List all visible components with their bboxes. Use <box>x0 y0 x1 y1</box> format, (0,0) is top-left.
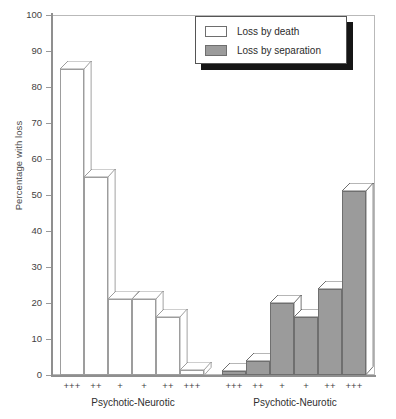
bar-front-face <box>84 177 108 375</box>
bar-side-face <box>366 183 374 375</box>
legend-swatch-death-icon <box>205 26 227 37</box>
bar-loss-by-separation-3 <box>294 317 318 375</box>
bar-loss-by-death-1 <box>84 177 108 375</box>
bar-loss-by-death-2 <box>108 299 132 375</box>
x-axis-tick-label: + <box>108 379 132 393</box>
bar-side-face <box>204 362 212 375</box>
x-axis-tick-label: +++ <box>60 379 84 393</box>
bar-loss-by-separation-0 <box>222 371 246 375</box>
x-axis-tick-label: +++ <box>222 379 246 393</box>
y-axis-tick-label: 50 <box>16 190 42 200</box>
x-axis-tick-labels: ++++++++++++++++++++++++ <box>52 379 375 393</box>
legend-label-death: Loss by death <box>237 26 299 37</box>
bar-chart: Percentage with loss 1009080706050403020… <box>0 0 396 419</box>
legend-swatch-separation-icon <box>205 45 227 56</box>
bar-loss-by-death-4 <box>156 317 180 375</box>
bar-loss-by-separation-5 <box>342 191 366 375</box>
bar-loss-by-separation-4 <box>318 289 342 375</box>
legend: Loss by death Loss by separation <box>195 16 347 64</box>
bar-front-face <box>246 361 270 375</box>
bar-loss-by-death-5 <box>180 370 204 375</box>
x-axis-line <box>51 375 376 377</box>
bar-loss-by-separation-2 <box>270 303 294 375</box>
y-axis-tick-label: 70 <box>16 118 42 128</box>
bar-front-face <box>132 299 156 375</box>
bar-front-face <box>318 289 342 375</box>
x-axis-tick-label: + <box>294 379 318 393</box>
x-axis-tick-label: ++ <box>318 379 342 393</box>
bar-front-face <box>108 299 132 375</box>
y-axis-tick-label: 10 <box>16 334 42 344</box>
x-axis-tick-label: ++ <box>246 379 270 393</box>
y-axis-tick-label: 60 <box>16 154 42 164</box>
bar-front-face <box>180 370 204 375</box>
y-axis-tick-label: 90 <box>16 46 42 56</box>
bar-front-face <box>222 371 246 375</box>
bar-front-face <box>294 317 318 375</box>
x-axis-tick-label: +++ <box>342 379 366 393</box>
bar-front-face <box>60 69 84 375</box>
x-axis-tick-label: + <box>132 379 156 393</box>
bar-front-face <box>156 317 180 375</box>
x-axis-tick-label: ++ <box>156 379 180 393</box>
x-axis-tick-label: + <box>270 379 294 393</box>
x-axis-tick-label: ++ <box>84 379 108 393</box>
legend-label-separation: Loss by separation <box>237 45 321 56</box>
y-axis-tick-label: 100 <box>16 10 42 20</box>
x-axis-group-label-1: Psychotic-Neurotic <box>52 397 214 408</box>
bar-front-face <box>270 303 294 375</box>
bar-loss-by-death-0 <box>60 69 84 375</box>
x-axis-tick-label: +++ <box>180 379 204 393</box>
y-axis-tick-label: 0 <box>16 370 42 380</box>
y-axis-tick-label: 80 <box>16 82 42 92</box>
y-axis-title: Percentage with loss <box>13 96 24 236</box>
bar-front-face <box>342 191 366 375</box>
y-axis-tick-label: 20 <box>16 298 42 308</box>
x-axis-group-label-2: Psychotic-Neurotic <box>214 397 376 408</box>
bar-loss-by-death-3 <box>132 299 156 375</box>
bar-loss-by-separation-1 <box>246 361 270 375</box>
y-axis-tick-label: 40 <box>16 226 42 236</box>
legend-item-loss-by-separation: Loss by separation <box>205 42 321 58</box>
legend-box: Loss by death Loss by separation <box>195 16 347 64</box>
legend-item-loss-by-death: Loss by death <box>205 23 299 39</box>
y-axis-tick-label: 30 <box>16 262 42 272</box>
